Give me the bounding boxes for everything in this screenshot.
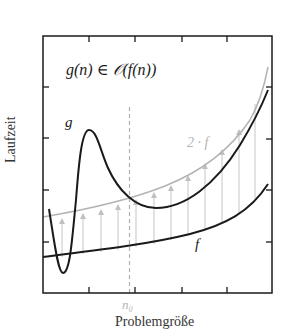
plot-canvas <box>0 0 290 331</box>
curve-g <box>49 90 268 273</box>
n0-label: n₀ <box>122 297 133 313</box>
curve-g-label: g <box>65 114 73 131</box>
x-axis-label: Problemgröße <box>115 314 194 330</box>
scaling-arrows <box>62 104 255 257</box>
diagram-title: g(n) ∈ 𝒪(f(n)) <box>66 60 156 79</box>
curve-f-label: f <box>195 236 199 253</box>
curve-2f-label: 2 · f <box>187 135 208 151</box>
big-o-diagram: g(n) ∈ 𝒪(f(n)) g 2 · f f n₀ Problemgröße… <box>0 0 290 331</box>
y-axis-label: Laufzeit <box>3 116 19 163</box>
